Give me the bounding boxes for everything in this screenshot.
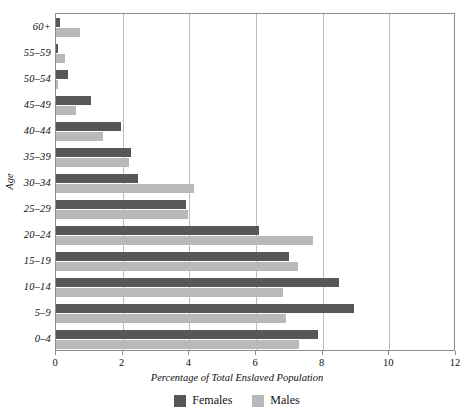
bar-group <box>56 200 454 219</box>
x-axis-tick-label-10: 10 <box>368 357 408 368</box>
y-axis-tick-5-9: 5–9 <box>3 307 51 318</box>
x-axis-tick-label-4: 4 <box>168 357 208 368</box>
bar-males-55-59 <box>56 54 65 63</box>
bar-group <box>56 148 454 167</box>
legend-label-females: Females <box>192 393 232 408</box>
bar-females-45-49 <box>56 96 91 105</box>
bar-males-15-19 <box>56 262 298 271</box>
y-axis-tick-labels: 0–45–910–1415–1920–2425–2930–3435–3940–4… <box>0 13 51 351</box>
x-axis-tick <box>255 351 256 355</box>
bar-females-50-54 <box>56 70 68 79</box>
legend: Females Males <box>0 393 474 408</box>
legend-item-males[interactable]: Males <box>252 393 299 408</box>
bar-group <box>56 122 454 141</box>
bar-group <box>56 278 454 297</box>
bar-group <box>56 96 454 115</box>
x-axis-tick <box>55 351 56 355</box>
plot-area <box>55 13 455 351</box>
bar-males-20-24 <box>56 236 313 245</box>
bar-females-10-14 <box>56 278 339 287</box>
y-axis-tick-0-4: 0–4 <box>3 333 51 344</box>
y-axis-tick-20-24: 20–24 <box>3 229 51 240</box>
legend-swatch-icon-males <box>252 395 264 407</box>
y-axis-tick-15-19: 15–19 <box>3 255 51 266</box>
bar-males-5-9 <box>56 314 286 323</box>
bar-females-5-9 <box>56 304 354 313</box>
bar-males-25-29 <box>56 210 188 219</box>
bar-group <box>56 304 454 323</box>
bar-chart: Age 0–45–910–1415–1920–2425–2930–3435–39… <box>0 0 474 419</box>
bar-females-60+ <box>56 18 60 27</box>
bar-males-30-34 <box>56 184 194 193</box>
x-axis-tick-label-8: 8 <box>302 357 342 368</box>
bar-males-60+ <box>56 28 80 37</box>
bar-group <box>56 252 454 271</box>
x-axis-tick-label-2: 2 <box>102 357 142 368</box>
x-axis-tick <box>188 351 189 355</box>
bar-males-45-49 <box>56 106 76 115</box>
x-axis-tick-label-6: 6 <box>235 357 275 368</box>
bar-females-20-24 <box>56 226 259 235</box>
x-axis-tick <box>322 351 323 355</box>
bar-group <box>56 44 454 63</box>
x-axis-tick-label-12: 12 <box>435 357 474 368</box>
bar-females-30-34 <box>56 174 138 183</box>
bar-group <box>56 330 454 349</box>
bar-males-50-54 <box>56 80 58 89</box>
bar-females-25-29 <box>56 200 186 209</box>
bar-group <box>56 18 454 37</box>
bar-males-10-14 <box>56 288 283 297</box>
bar-females-15-19 <box>56 252 289 261</box>
y-axis-tick-55-59: 55–59 <box>3 47 51 58</box>
bar-group <box>56 174 454 193</box>
y-axis-tick-60+: 60+ <box>3 21 51 32</box>
bar-females-40-44 <box>56 122 121 131</box>
bar-males-40-44 <box>56 132 103 141</box>
x-axis-title: Percentage of Total Enslaved Population <box>0 372 474 383</box>
y-axis-tick-40-44: 40–44 <box>3 125 51 136</box>
y-axis-tick-25-29: 25–29 <box>3 203 51 214</box>
legend-swatch-icon-females <box>174 395 186 407</box>
bar-females-0-4 <box>56 330 318 339</box>
bar-males-0-4 <box>56 340 299 349</box>
y-axis-tick-45-49: 45–49 <box>3 99 51 110</box>
legend-label-males: Males <box>270 393 299 408</box>
y-axis-tick-35-39: 35–39 <box>3 151 51 162</box>
bar-females-55-59 <box>56 44 58 53</box>
legend-item-females[interactable]: Females <box>174 393 232 408</box>
x-axis-tick <box>455 351 456 355</box>
bar-males-35-39 <box>56 158 129 167</box>
y-axis-tick-10-14: 10–14 <box>3 281 51 292</box>
x-axis-tick <box>122 351 123 355</box>
bar-group <box>56 226 454 245</box>
bar-group <box>56 70 454 89</box>
x-axis-tick-label-0: 0 <box>35 357 75 368</box>
x-axis-tick <box>388 351 389 355</box>
bar-females-35-39 <box>56 148 131 157</box>
y-axis-tick-50-54: 50–54 <box>3 73 51 84</box>
y-axis-tick-30-34: 30–34 <box>3 177 51 188</box>
